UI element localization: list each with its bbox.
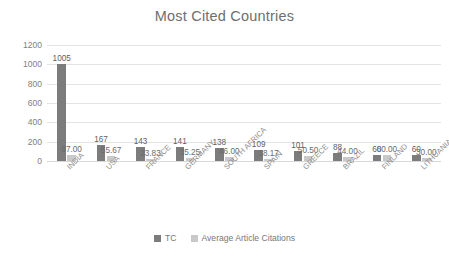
y-axis-tick-label: 1000 (23, 59, 42, 69)
y-axis-tick-label: 600 (28, 98, 42, 108)
y-axis-tick-label: 200 (28, 137, 42, 147)
legend-swatch-icon (154, 235, 161, 242)
bar-group: 14323.83 (126, 45, 165, 161)
bar-group: 10150.50 (283, 45, 322, 161)
legend-swatch-icon (191, 235, 198, 242)
bar-value-label: 141 (167, 137, 193, 146)
bar-value-label: 1005 (49, 54, 75, 63)
bar-value-label: 55.67 (96, 146, 126, 155)
chart-title: Most Cited Countries (0, 8, 449, 24)
x-axis: INDIAUSAFRANCEGERMANYSOUTH AFRICASPAINGR… (47, 163, 441, 215)
legend-item[interactable]: TC (154, 233, 176, 243)
y-axis: 020040060080010001200 (8, 45, 42, 161)
y-axis-tick-label: 800 (28, 79, 42, 89)
bar-value-label: 143 (127, 137, 153, 146)
bar-group: 6030.00 (402, 45, 441, 161)
y-axis-tick-label: 400 (28, 117, 42, 127)
legend-label: TC (165, 233, 176, 243)
bar-group: 100567.00 (47, 45, 86, 161)
y-axis-tick-label: 1200 (23, 40, 42, 50)
legend-item[interactable]: Average Article Citations (191, 233, 295, 243)
bar-value-label: 67.00 (57, 145, 87, 154)
bar-group: 8844.00 (323, 45, 362, 161)
chart-legend: TCAverage Article Citations (0, 233, 449, 243)
y-axis-tick-label: 0 (37, 156, 42, 166)
bar-value-label: 167 (88, 135, 114, 144)
bar-group: 14135.25 (165, 45, 204, 161)
legend-label: Average Article Citations (202, 233, 295, 243)
bar-group: 16755.67 (86, 45, 125, 161)
chart-container: Most Cited Countries 0200400600800100012… (0, 0, 449, 263)
bar-group: 6060.00 (362, 45, 401, 161)
